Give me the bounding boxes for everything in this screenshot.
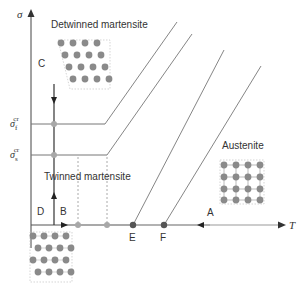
sigma-f-cr-label: σfcr — [10, 117, 19, 132]
twinned-lattice-icon — [30, 232, 75, 282]
austenite-label: Austenite — [222, 141, 264, 151]
point-t1 — [75, 222, 81, 228]
arrow-up-icon — [51, 192, 57, 199]
sigma-axis-label: σ — [17, 9, 22, 20]
sigma-s-cr-label: σscr — [10, 148, 19, 163]
path-label-a: A — [207, 208, 214, 218]
point-label-f: F — [160, 233, 166, 243]
arrow-down-icon — [51, 97, 57, 104]
twinned-martensite-label: Twinned martensite — [44, 172, 131, 182]
point-label-e: E — [129, 233, 136, 243]
phase-diagram: σ T σfcr σscr Detwinned martensite Twinn… — [0, 0, 308, 288]
temperature-axis-label: T — [289, 220, 295, 231]
arrow-right-icon — [61, 222, 68, 228]
path-label-c: C — [38, 59, 45, 69]
sigma-s-cr-boundary — [31, 34, 192, 155]
sigma-f-cr-boundary — [31, 22, 177, 124]
point-e — [130, 222, 136, 228]
transformation-line-e — [133, 50, 224, 225]
detwinned-lattice-icon — [58, 40, 113, 89]
point-sigma-f — [51, 121, 57, 127]
point-sigma-s — [51, 152, 57, 158]
point-f — [161, 222, 167, 228]
path-label-d: D — [37, 207, 44, 217]
point-t2 — [104, 222, 110, 228]
temperature-axis — [31, 222, 286, 229]
detwinned-martensite-label: Detwinned martensite — [51, 20, 148, 30]
austenite-lattice-icon — [220, 160, 264, 204]
arrow-left-icon — [197, 222, 204, 228]
sigma-axis — [28, 9, 35, 248]
path-label-b: B — [60, 207, 67, 217]
loading-path — [51, 84, 204, 228]
